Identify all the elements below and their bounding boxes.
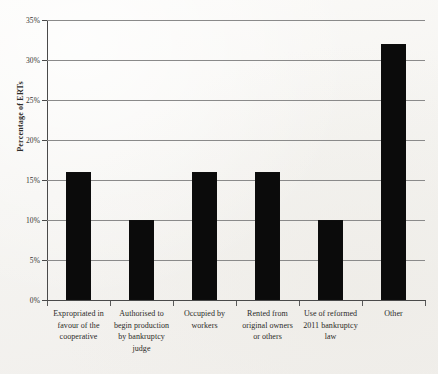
x-category-label-line: begin production [110,320,173,332]
bar [318,220,343,300]
bar [192,172,217,300]
y-tick-label-10: 10% [26,216,40,225]
bar [129,220,154,300]
y-tick-label-15: 15% [26,176,40,185]
gridline-15 [47,180,425,181]
y-tick-mark-5 [42,260,47,261]
x-category-label-line: 2011 bankruptcy [299,320,362,332]
x-tick-mark-2 [173,301,174,306]
x-tick-mark-5 [362,301,363,306]
x-category-label-line: workers [173,320,236,332]
y-tick-mark-30 [42,60,47,61]
gridline-10 [47,220,425,221]
x-category-label-line: or others [236,331,299,343]
x-tick-mark-6 [425,301,426,306]
x-tick-mark-0 [47,301,48,306]
x-category-label-line: by bankruptcy [110,331,173,343]
gridline-20 [47,140,425,141]
y-tick-label-25: 25% [26,96,40,105]
x-tick-mark-4 [299,301,300,306]
x-tick-mark-3 [236,301,237,306]
x-category-label-line: law [299,331,362,343]
x-category-label-line: Occupied by [173,308,236,320]
x-category-label-line: original owners [236,320,299,332]
gridline-35 [47,20,425,21]
y-tick-mark-20 [42,140,47,141]
gridline-30 [47,60,425,61]
x-category-label-line: favour of the [47,320,110,332]
x-category-label: Occupied byworkers [173,308,236,331]
x-category-label-line: cooperative [47,331,110,343]
plot-area [47,20,425,300]
y-tick-mark-25 [42,100,47,101]
y-tick-mark-35 [42,20,47,21]
y-tick-label-20: 20% [26,136,40,145]
x-axis-category-labels: Expropriated infavour of thecooperativeA… [47,308,425,374]
x-category-label: Authorised tobegin productionby bankrupt… [110,308,173,354]
bar [66,172,91,300]
y-tick-label-30: 30% [26,56,40,65]
y-axis-tick-labels: 0%5%10%15%20%25%30%35% [0,0,40,374]
x-category-label-line: judge [110,343,173,355]
gridline-5 [47,260,425,261]
y-tick-mark-15 [42,180,47,181]
x-category-label: Expropriated infavour of thecooperative [47,308,110,343]
x-category-label-line: Expropriated in [47,308,110,320]
x-category-label-line: Rented from [236,308,299,320]
y-tick-mark-10 [42,220,47,221]
gridline-25 [47,100,425,101]
x-category-label: Other [362,308,425,320]
y-tick-label-0: 0% [30,296,40,305]
y-tick-label-35: 35% [26,16,40,25]
bar-chart-figure: Percentage of ERTs 0%5%10%15%20%25%30%35… [0,0,438,374]
x-category-label-line: Use of reformed [299,308,362,320]
y-tick-label-5: 5% [30,256,40,265]
x-category-label: Rented fromoriginal ownersor others [236,308,299,343]
bar [381,44,406,300]
x-category-label-line: Authorised to [110,308,173,320]
x-tick-mark-1 [110,301,111,306]
x-category-label: Use of reformed2011 bankruptcylaw [299,308,362,343]
x-category-label-line: Other [362,308,425,320]
bar [255,172,280,300]
